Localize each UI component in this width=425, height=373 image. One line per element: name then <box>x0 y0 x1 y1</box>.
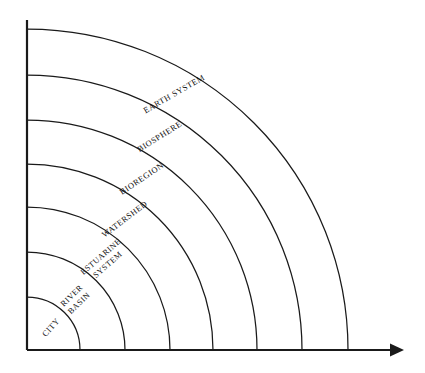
ring-label-watershed: WATERSHED <box>100 199 149 239</box>
nested-scales-diagram: CITYRIVERBASINESTUARINESYSTEMWATERSHEDBI… <box>0 0 425 373</box>
arrow-right-icon <box>390 344 404 357</box>
ring-label-biosphere: BIOSPHERE <box>136 119 184 153</box>
ring-label-bioregion: BIOREGION <box>118 161 165 197</box>
ring-label-earth-system: EARTH SYSTEM <box>142 73 206 115</box>
diagram-canvas: CITYRIVERBASINESTUARINESYSTEMWATERSHEDBI… <box>0 0 425 373</box>
ring-label-city: CITY <box>40 316 61 338</box>
ring-label-estuarine-system: ESTUARINESYSTEM <box>79 237 130 285</box>
ring-label-group: CITYRIVERBASINESTUARINESYSTEMWATERSHEDBI… <box>40 73 206 339</box>
arc-bioregion <box>27 120 257 350</box>
ring-label-river-basin: RIVERBASIN <box>59 283 92 316</box>
